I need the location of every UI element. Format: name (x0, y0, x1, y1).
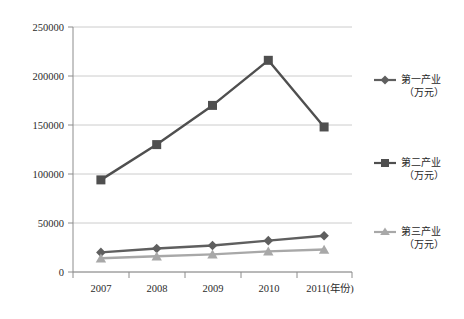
legend-item-tertiary-industry[interactable]: 第三产业 （万元） (374, 225, 444, 250)
gridlines (73, 27, 352, 272)
y-tick-label-250000: 250000 (33, 22, 65, 33)
square-marker-icon (381, 159, 389, 167)
legend-label-primary-unit: （万元） (404, 87, 444, 98)
square-marker-icon (96, 175, 105, 184)
legend: 第一产业 （万元） 第二产业 （万元） 第三产业 （万元） (374, 73, 444, 250)
legend-label-tertiary-unit: （万元） (404, 239, 444, 250)
square-marker-icon (208, 101, 217, 110)
chart-canvas: 250000 200000 150000 100000 50000 0 2007… (0, 0, 464, 319)
y-tick-label-50000: 50000 (38, 218, 64, 229)
y-tick-label-100000: 100000 (33, 169, 65, 180)
square-marker-icon (264, 56, 273, 65)
series-line (101, 60, 324, 180)
x-tick-label-2007: 2007 (91, 283, 112, 294)
line-chart: 250000 200000 150000 100000 50000 0 2007… (0, 0, 464, 319)
diamond-marker-icon (264, 236, 274, 246)
legend-label-secondary-unit: （万元） (404, 170, 444, 181)
legend-item-primary-industry[interactable]: 第一产业 （万元） (374, 73, 444, 98)
legend-label-primary-name: 第一产业 (401, 73, 441, 85)
y-tick-label-150000: 150000 (33, 120, 65, 131)
legend-label-tertiary-name: 第三产业 (401, 225, 441, 237)
square-marker-icon (320, 122, 329, 131)
diamond-marker-icon (319, 231, 329, 241)
square-marker-icon (152, 140, 161, 149)
y-tick-label-0: 0 (59, 267, 64, 278)
diamond-marker-icon (208, 241, 218, 251)
diamond-marker-icon (381, 76, 390, 85)
legend-item-secondary-industry[interactable]: 第二产业 （万元） (374, 156, 444, 181)
x-tick-label-2008: 2008 (147, 283, 168, 294)
series-layer (96, 56, 330, 263)
y-axis: 250000 200000 150000 100000 50000 0 (33, 22, 74, 278)
x-tick-label-2009: 2009 (203, 283, 224, 294)
series-2 (96, 56, 328, 185)
x-tick-label-2011: 2011(年份) (306, 282, 354, 295)
legend-label-secondary-name: 第二产业 (401, 156, 441, 168)
x-tick-label-2010: 2010 (259, 283, 280, 294)
y-tick-label-200000: 200000 (33, 71, 65, 82)
x-axis: 2007 2008 2009 2010 2011(年份) (73, 272, 354, 295)
